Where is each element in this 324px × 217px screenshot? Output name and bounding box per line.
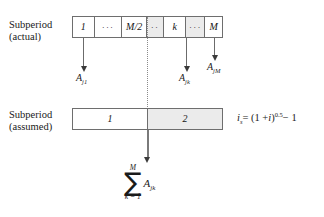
subperiod-ellipsis-3: ···: [186, 17, 205, 37]
cashflow-label-j1: Aj1: [76, 72, 87, 84]
row-label-actual: Subperiod (actual): [9, 19, 52, 42]
summation-expression: M ∑ k = 1 Ajk: [124, 164, 155, 201]
midpoint-dotted-divider: [147, 17, 148, 111]
row-label-assumed-line2: (assumed): [9, 121, 52, 133]
formula-eq: = (1 +: [242, 112, 268, 123]
formula-tail: − 1: [283, 112, 297, 123]
summation-term: Ajk: [144, 177, 156, 189]
cashflow-label-j1-sub: j1: [82, 78, 87, 85]
assumed-subperiod-cell-1-label: 1: [108, 114, 113, 124]
timeline-bar-assumed: 1 2: [72, 108, 223, 130]
subperiod-ellipsis-1-label: ···: [102, 23, 115, 32]
assumed-subperiod-cell-1[interactable]: 1: [73, 109, 148, 129]
summation-term-sub: jk: [150, 184, 155, 192]
cashflow-arrow-jM: [214, 38, 215, 56]
subperiod-cell-1-label: 1: [81, 22, 86, 32]
subperiod-cell-k-label: k: [172, 22, 176, 32]
subperiod-cell-m[interactable]: M: [205, 17, 222, 37]
cashflow-label-jM-sub: jM: [213, 67, 220, 74]
figure-canvas: Subperiod (actual) 1 ··· M/2 ·· k ··· M …: [0, 0, 324, 217]
row-label-assumed: Subperiod (assumed): [9, 109, 52, 132]
cashflow-label-jk: Ajk: [179, 72, 190, 84]
cashflow-label-jk-sub: jk: [185, 78, 190, 85]
row-label-assumed-line1: Subperiod: [9, 109, 52, 120]
sigma-stack: M ∑ k = 1: [124, 164, 142, 201]
subperiod-ellipsis-2: ··: [147, 17, 164, 37]
cashflow-arrow-jk: [186, 38, 187, 67]
subperiod-rate-formula: is= (1 +i)0.5− 1: [237, 112, 297, 124]
summation-arrow: [147, 130, 149, 158]
summation-lower-limit: k = 1: [125, 193, 141, 201]
subperiod-ellipsis-2-label: ··: [151, 23, 159, 32]
assumed-subperiod-cell-2[interactable]: 2: [148, 109, 222, 129]
cashflow-arrow-j1: [83, 38, 84, 67]
formula-exponent: 0.5: [275, 111, 283, 118]
subperiod-ellipsis-1: ···: [95, 17, 123, 37]
subperiod-cell-m-half-label: M/2: [126, 22, 142, 32]
assumed-subperiod-cell-2-label: 2: [183, 114, 188, 124]
subperiod-cell-m-label: M: [209, 22, 217, 32]
subperiod-cell-m-half[interactable]: M/2: [122, 17, 147, 37]
subperiod-cell-1[interactable]: 1: [73, 17, 95, 37]
subperiod-cell-k[interactable]: k: [164, 17, 187, 37]
subperiod-ellipsis-3-label: ···: [189, 23, 202, 32]
row-label-actual-line1: Subperiod: [9, 19, 52, 30]
cashflow-label-jM: AjM: [207, 61, 220, 73]
row-label-actual-line2: (actual): [9, 31, 52, 43]
sigma-icon: ∑: [124, 171, 142, 195]
